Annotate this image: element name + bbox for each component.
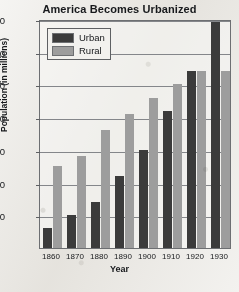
y-axis-label: 70 bbox=[0, 15, 5, 26]
chart-container: America Becomes Urbanized 10203040506070… bbox=[0, 0, 239, 292]
bar-urban-1910 bbox=[163, 111, 172, 248]
bar-rural-1910 bbox=[173, 84, 182, 248]
legend-item-urban: Urban bbox=[52, 32, 105, 43]
bar-urban-1880 bbox=[91, 202, 100, 248]
bar-rural-1900 bbox=[149, 98, 158, 248]
bar-group bbox=[112, 21, 136, 248]
x-axis-title: Year bbox=[0, 264, 239, 274]
bar-urban-1870 bbox=[67, 215, 76, 248]
bar-group bbox=[208, 21, 232, 248]
bar-rural-1880 bbox=[101, 130, 110, 248]
legend-label-urban: Urban bbox=[79, 32, 105, 43]
bar-rural-1930 bbox=[221, 71, 230, 248]
y-axis-title: Population (in millions) bbox=[0, 38, 9, 132]
bar-group bbox=[184, 21, 208, 248]
bar-group bbox=[160, 21, 184, 248]
bar-rural-1920 bbox=[197, 71, 206, 248]
legend-item-rural: Rural bbox=[52, 45, 105, 56]
legend-swatch-urban bbox=[52, 33, 74, 43]
bar-rural-1870 bbox=[77, 156, 86, 248]
x-axis-label: 1930 bbox=[204, 252, 234, 261]
y-axis-label: 30 bbox=[0, 145, 5, 156]
bar-rural-1890 bbox=[125, 114, 134, 248]
legend-swatch-rural bbox=[52, 46, 74, 56]
y-axis-label: 20 bbox=[0, 178, 5, 189]
bar-group bbox=[136, 21, 160, 248]
legend-label-rural: Rural bbox=[79, 45, 102, 56]
bar-urban-1930 bbox=[211, 22, 220, 248]
bar-urban-1920 bbox=[187, 71, 196, 248]
chart-legend: Urban Rural bbox=[47, 28, 111, 60]
y-axis-label: 10 bbox=[0, 211, 5, 222]
chart-title: America Becomes Urbanized bbox=[0, 3, 239, 15]
bar-urban-1890 bbox=[115, 176, 124, 248]
bar-rural-1860 bbox=[53, 166, 62, 248]
bar-urban-1860 bbox=[43, 228, 52, 248]
bar-urban-1900 bbox=[139, 150, 148, 248]
